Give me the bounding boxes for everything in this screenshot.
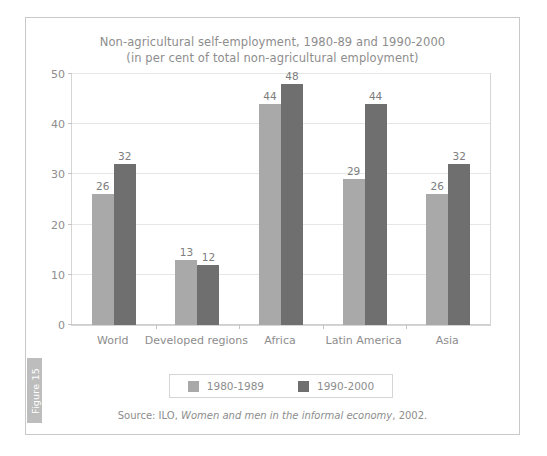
figure-number-label: Figure 15 (29, 368, 40, 414)
bar: 29 (343, 179, 365, 325)
chart-title-line2: (in per cent of total non-agricultural e… (26, 50, 519, 66)
y-axis-tick-label: 0 (58, 319, 65, 332)
legend-swatch (188, 381, 199, 392)
category-label: World (97, 334, 129, 347)
bar-value-label: 26 (96, 180, 109, 192)
y-axis-tick-mark (68, 224, 72, 225)
bar: 12 (197, 265, 219, 325)
source-prefix: Source: ILO, (118, 410, 181, 421)
y-axis-tick-mark (68, 123, 72, 124)
y-axis-tick-label: 20 (51, 218, 65, 231)
category-label: Latin America (326, 334, 402, 347)
legend-entry: 1990-2000 (298, 380, 374, 392)
bar: 26 (92, 194, 114, 325)
source-suffix: , 2002. (392, 410, 427, 421)
legend-label: 1990-2000 (317, 380, 374, 392)
bar-value-label: 29 (347, 165, 360, 177)
x-axis-tick-mark (239, 325, 240, 329)
bar-group: 2632 (92, 164, 136, 325)
bar-group: 2944 (343, 104, 387, 325)
chart-title: Non-agricultural self-employment, 1980-8… (26, 34, 519, 66)
legend-swatch (298, 381, 309, 392)
y-axis-tick-mark (68, 274, 72, 275)
x-axis-tick-mark (323, 325, 324, 329)
gridline (72, 73, 490, 74)
bar-value-label: 13 (180, 246, 193, 258)
x-axis-tick-mark (156, 325, 157, 329)
bar-group: 4448 (259, 84, 303, 325)
y-axis-tick-label: 30 (51, 168, 65, 181)
bar: 44 (365, 104, 387, 325)
y-axis-tick-mark (68, 73, 72, 74)
y-axis-tick-mark (68, 173, 72, 174)
bar: 26 (426, 194, 448, 325)
chart-title-line1: Non-agricultural self-employment, 1980-8… (100, 35, 446, 49)
category-label: Asia (436, 334, 459, 347)
legend-label: 1980-1989 (207, 380, 264, 392)
bar-value-label: 32 (118, 150, 131, 162)
y-axis-tick-mark (68, 324, 72, 325)
y-axis-tick-label: 40 (51, 118, 65, 131)
y-axis-tick-label: 50 (51, 68, 65, 81)
category-label: Africa (264, 334, 295, 347)
chart-legend: 1980-19891990-2000 (169, 374, 393, 398)
category-label: Developed regions (145, 334, 248, 347)
bar: 48 (281, 84, 303, 325)
bar-value-label: 12 (202, 251, 215, 263)
category-axis: WorldDeveloped regionsAfricaLatin Americ… (71, 334, 491, 354)
plot-area: 0102030405026321312444829442632 (71, 73, 491, 326)
bar-group: 2632 (426, 164, 470, 325)
bar: 32 (114, 164, 136, 325)
x-axis-tick-mark (406, 325, 407, 329)
bar-value-label: 44 (369, 90, 382, 102)
figure-number-tab: Figure 15 (27, 358, 42, 423)
legend-entry: 1980-1989 (188, 380, 264, 392)
bar-value-label: 48 (285, 70, 298, 82)
bar-value-label: 44 (263, 90, 276, 102)
source-title: Women and men in the informal economy (181, 410, 392, 421)
bar-value-label: 32 (453, 150, 466, 162)
y-axis-tick-label: 10 (51, 268, 65, 281)
bar-group: 1312 (175, 260, 219, 325)
bar: 32 (448, 164, 470, 325)
bar: 44 (259, 104, 281, 325)
figure-frame: Non-agricultural self-employment, 1980-8… (25, 17, 520, 435)
bar-value-label: 26 (431, 180, 444, 192)
bar: 13 (175, 260, 197, 325)
source-note: Source: ILO, Women and men in the inform… (26, 410, 519, 421)
